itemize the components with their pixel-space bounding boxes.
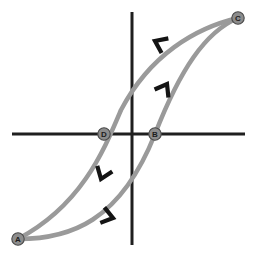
curve-descending-branch xyxy=(18,18,238,239)
point-label-a: A xyxy=(15,235,21,244)
arrow-upper-left-icon xyxy=(152,34,169,53)
point-marker-c: C xyxy=(232,12,244,24)
hysteresis-loop-svg: ABCD xyxy=(0,0,256,259)
point-marker-d: D xyxy=(98,128,110,140)
point-marker-a: A xyxy=(12,233,24,245)
hysteresis-diagram: ABCD xyxy=(0,0,256,259)
arrow-left-down-icon xyxy=(93,166,112,182)
axes-group xyxy=(12,12,245,245)
hysteresis-curve-group xyxy=(18,18,238,239)
point-label-d: D xyxy=(101,130,107,139)
curve-ascending-branch xyxy=(18,18,238,239)
point-label-b: B xyxy=(152,130,158,139)
point-label-c: C xyxy=(235,14,241,23)
point-marker-b: B xyxy=(149,128,161,140)
point-marker-group: ABCD xyxy=(12,12,244,245)
